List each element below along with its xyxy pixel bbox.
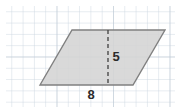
height-label: 5 [112, 49, 119, 64]
base-label: 8 [87, 87, 94, 102]
figure-canvas: 5 8 [0, 0, 180, 112]
parallelogram-figure: 5 8 [0, 0, 180, 112]
